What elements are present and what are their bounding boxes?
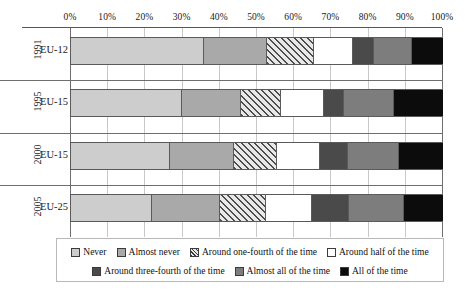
legend-swatch-icon [340, 267, 349, 276]
stacked-bar [70, 142, 442, 170]
bar-segment [71, 38, 204, 64]
x-axis-tick-70: 70% [322, 12, 340, 22]
x-axis-tick-100: 100% [431, 12, 454, 22]
bar-segment [71, 143, 170, 169]
bar-segment [234, 143, 277, 169]
region-label-EU-15-1995: EU-15 [26, 96, 68, 107]
stacked-bar-chart: 0%10%20%30%40%50%60%70%80%90%100% NeverA… [0, 0, 465, 293]
legend-item[interactable]: All of the time [340, 267, 408, 277]
legend-row-1: NeverAlmost neverAround one-fourth of th… [63, 243, 437, 262]
bar-segment [394, 90, 443, 116]
legend-item[interactable]: Almost all of the time [235, 267, 330, 277]
region-label-EU-25-2005: EU-25 [26, 201, 68, 212]
group-separator [0, 133, 442, 134]
x-axis-tick-80: 80% [359, 12, 377, 22]
bar-segment [314, 38, 353, 64]
x-axis-tick-10: 10% [98, 12, 116, 22]
bar-segment [266, 195, 312, 221]
x-axis-tick-40: 40% [210, 12, 228, 22]
plot-area [70, 28, 442, 237]
bar-segment [349, 195, 404, 221]
legend-label: Almost all of the time [247, 267, 330, 277]
legend-swatch-icon [327, 248, 336, 257]
stacked-bar [70, 89, 442, 117]
legend-swatch-icon [190, 248, 199, 257]
legend-label: All of the time [352, 267, 408, 277]
bar-segment [374, 38, 412, 64]
x-axis-tick-90: 90% [396, 12, 414, 22]
legend-item[interactable]: Around one-fourth of the time [190, 248, 317, 258]
bar-segment [348, 143, 399, 169]
x-axis-tick-20: 20% [136, 12, 154, 22]
stacked-bar [70, 194, 442, 222]
bar-segment [170, 143, 234, 169]
bar-segment [412, 38, 443, 64]
bar-segment [220, 195, 266, 221]
bar-segment [312, 195, 349, 221]
bar-segment [277, 143, 320, 169]
legend-swatch-icon [235, 267, 244, 276]
legend-row-2: Around three-fourth of the timeAlmost al… [63, 262, 437, 281]
bar-segment [152, 195, 220, 221]
bar-segment [353, 38, 374, 64]
legend-label: Around half of the time [339, 248, 429, 258]
x-axis-tick-labels: 0%10%20%30%40%50%60%70%80%90%100% [0, 12, 465, 24]
bar-group-2000 [70, 133, 442, 185]
bar-group-2005 [70, 185, 442, 237]
legend-item[interactable]: Around three-fourth of the time [92, 267, 224, 277]
legend-swatch-icon [92, 267, 101, 276]
bar-segment [404, 195, 443, 221]
bar-segment [344, 90, 394, 116]
legend-swatch-icon [71, 248, 80, 257]
legend-swatch-icon [117, 248, 126, 257]
bar-segment [267, 38, 314, 64]
group-separator [0, 185, 442, 186]
x-axis-tick-0: 0% [64, 12, 77, 22]
region-label-EU-15-2000: EU-15 [26, 149, 68, 160]
group-separator [0, 80, 442, 81]
bar-segment [324, 90, 344, 116]
bar-segment [182, 90, 241, 116]
legend-item[interactable]: Never [71, 248, 106, 258]
bar-segment [71, 195, 152, 221]
bar-segment [399, 143, 443, 169]
bar-group-1995 [70, 80, 442, 132]
bar-segment [71, 90, 182, 116]
legend-label: Around one-fourth of the time [202, 248, 317, 258]
legend-item[interactable]: Around half of the time [327, 248, 429, 258]
legend-item[interactable]: Almost never [117, 248, 180, 258]
x-axis-tick-30: 30% [173, 12, 191, 22]
legend-label: Never [83, 248, 106, 258]
chart-legend: NeverAlmost neverAround one-fourth of th… [56, 238, 444, 282]
bar-segment [281, 90, 324, 116]
x-axis-tick-60: 60% [284, 12, 302, 22]
bar-segment [204, 38, 267, 64]
legend-label: Around three-fourth of the time [104, 267, 224, 277]
stacked-bar [70, 37, 442, 65]
x-axis-tick-50: 50% [247, 12, 265, 22]
bar-segment [320, 143, 348, 169]
bar-segment [241, 90, 281, 116]
bar-group-1991 [70, 28, 442, 80]
legend-label: Almost never [129, 248, 180, 258]
region-label-EU-12-1991: EU-12 [26, 44, 68, 55]
